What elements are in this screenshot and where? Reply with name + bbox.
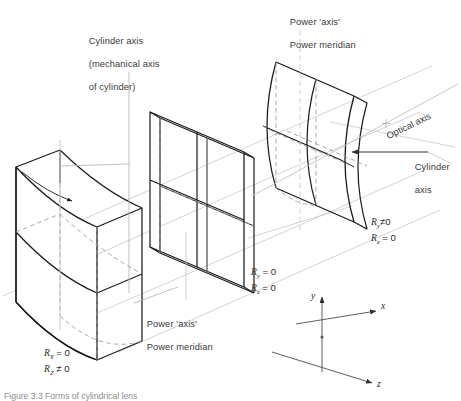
cylinder-axis-right-line1: Cylinder (415, 162, 450, 172)
power-axis-bottom-line2: Power meridian (147, 342, 213, 352)
axis-label-y: y (311, 290, 315, 301)
left-ry-val: 0 (65, 347, 70, 358)
mid-ry-sub: y (257, 272, 260, 279)
right-ry-val: 0 (385, 216, 390, 227)
right-rz-val: 0 (390, 232, 395, 243)
middle-lens-ry: Ry = 0 (251, 266, 276, 282)
power-axis-top-line1: Power 'axis' (290, 17, 340, 27)
label-cylinder-axis-right: Cylinder axis (404, 150, 450, 208)
cylinder-axis-line1: Cylinder axis (89, 36, 144, 46)
middle-lens-rz: Rz = 0 (251, 282, 276, 298)
axis-label-z: z (377, 378, 381, 389)
label-cylinder-axis-top: Cylinder axis (mechanical axis of cylind… (78, 24, 160, 105)
left-ry-sub: Y (50, 353, 54, 360)
mid-ry-rel: = (263, 266, 269, 277)
left-lens-ry: RY = 0 (44, 347, 70, 363)
right-lens-radius-labels: Ry≠0 Rz = 0 (371, 216, 396, 249)
mid-rz-sub: z (257, 288, 260, 295)
left-lens-shape (16, 150, 142, 360)
label-power-axis-top: Power 'axis' Power meridian (279, 5, 356, 63)
cylinder-axis-line2: (mechanical axis (89, 59, 160, 69)
leader-power-axis-bottom (134, 287, 178, 303)
left-rz-rel: ≠ (56, 363, 61, 374)
left-rz-sub: Z (50, 369, 54, 376)
mid-rz-val: 0 (270, 282, 275, 293)
power-axis-top-line2: Power meridian (290, 40, 356, 50)
cylinder-axis-line3: of cylinder) (89, 82, 136, 92)
middle-lens-radius-labels: Ry = 0 Rz = 0 (251, 266, 276, 299)
mid-rz-rel: = (262, 282, 268, 293)
left-lens-rz: RZ ≠ 0 (44, 363, 70, 379)
mid-ry-val: 0 (271, 266, 276, 277)
figure-caption: Figure 3.3 Forms of cylindrical lens (4, 391, 137, 401)
coordinate-triad (272, 297, 376, 383)
right-rz-sub: z (377, 238, 380, 245)
right-lens-rz: Rz = 0 (371, 232, 396, 248)
left-ry-rel: = (56, 347, 62, 358)
axis-label-x: x (381, 300, 385, 311)
middle-lens-shape (150, 112, 254, 293)
right-rz-rel: = (382, 232, 388, 243)
left-rz-val: 0 (64, 363, 69, 374)
power-axis-bottom-line1: Power 'axis' (147, 319, 197, 329)
right-lens-ry: Ry≠0 (371, 216, 396, 232)
cylinder-axis-right-line2: axis (415, 185, 432, 195)
right-lens-shape (263, 62, 367, 229)
left-lens-radius-labels: RY = 0 RZ ≠ 0 (44, 347, 70, 380)
label-power-axis-bottom: Power 'axis' Power meridian (136, 307, 213, 365)
